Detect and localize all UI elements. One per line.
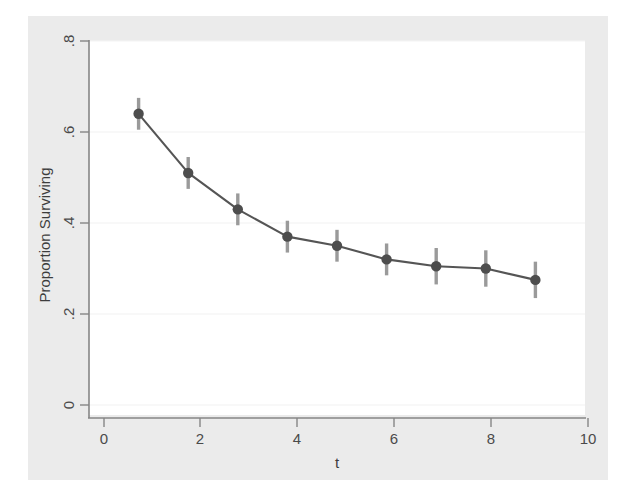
x-tick-label-6: 6 bbox=[390, 430, 398, 447]
data-point-marker bbox=[481, 263, 491, 273]
y-tick-label-0.2: .2 bbox=[60, 308, 77, 321]
y-axis-title: Proportion Surviving bbox=[36, 167, 53, 302]
data-point-marker bbox=[332, 241, 342, 251]
data-point-marker bbox=[233, 204, 243, 214]
x-axis-title: t bbox=[335, 454, 340, 471]
data-point-marker bbox=[282, 231, 292, 241]
y-tick-label-0.4: .4 bbox=[60, 217, 77, 230]
y-tick-label-0.6: .6 bbox=[60, 126, 77, 139]
y-tick-labels: .8 .6 .4 .2 0 bbox=[60, 35, 77, 409]
y-tick-label-0.8: .8 bbox=[60, 35, 77, 48]
chart-figure: .8 .6 .4 .2 0 Proportion Surviving 0 2 4… bbox=[0, 0, 636, 498]
x-tick-label-4: 4 bbox=[293, 430, 301, 447]
y-axis bbox=[80, 40, 89, 418]
survival-curve-chart: .8 .6 .4 .2 0 Proportion Surviving 0 2 4… bbox=[0, 0, 636, 498]
data-point-marker bbox=[133, 109, 143, 119]
x-tick-label-8: 8 bbox=[487, 430, 495, 447]
x-tick-labels: 0 2 4 6 8 10 bbox=[100, 430, 597, 447]
x-tick-label-0: 0 bbox=[100, 430, 108, 447]
data-point-marker bbox=[183, 168, 193, 178]
x-tick-label-10: 10 bbox=[580, 430, 597, 447]
y-tick-label-0.0: 0 bbox=[60, 401, 77, 409]
x-tick-label-2: 2 bbox=[196, 430, 204, 447]
x-axis bbox=[88, 418, 588, 427]
data-point-marker bbox=[431, 261, 441, 271]
data-point-marker bbox=[381, 254, 391, 264]
data-point-marker bbox=[530, 275, 540, 285]
plot-area-background bbox=[89, 41, 585, 415]
